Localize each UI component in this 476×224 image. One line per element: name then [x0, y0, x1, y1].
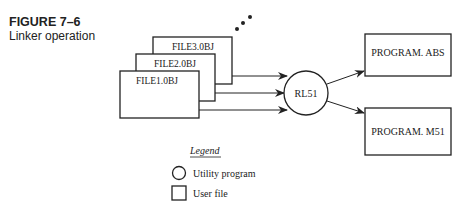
output-box-abs: PROGRAM. ABS: [365, 34, 451, 76]
abs-label: PROGRAM. ABS: [371, 47, 444, 58]
file-box-file1: FILE1.0BJ: [120, 71, 199, 118]
linker-diagram: FILE3.0BJ FILE2.0BJ FILE1.0BJ RL51 PROGR…: [0, 0, 476, 224]
circle-legend-icon: [173, 167, 186, 180]
legend: Legend Utility program User file: [172, 145, 256, 200]
rl51-label: RL51: [295, 88, 318, 99]
legend-userfile-label: User file: [193, 188, 228, 199]
file2-label: FILE2.0BJ: [154, 59, 196, 69]
arrow-rl51-to-abs: [327, 71, 364, 84]
utility-node-rl51: RL51: [284, 71, 328, 115]
ellipsis-dots-icon: [235, 15, 252, 31]
m51-label: PROGRAM. M51: [371, 126, 444, 137]
arrow-rl51-to-m51: [327, 101, 364, 113]
file1-label: FILE1.0BJ: [136, 76, 178, 86]
square-legend-icon: [172, 186, 186, 200]
output-box-m51: PROGRAM. M51: [365, 108, 451, 155]
legend-title: Legend: [189, 145, 220, 156]
legend-utility-label: Utility program: [193, 168, 256, 179]
file3-label: FILE3.0BJ: [172, 42, 214, 52]
